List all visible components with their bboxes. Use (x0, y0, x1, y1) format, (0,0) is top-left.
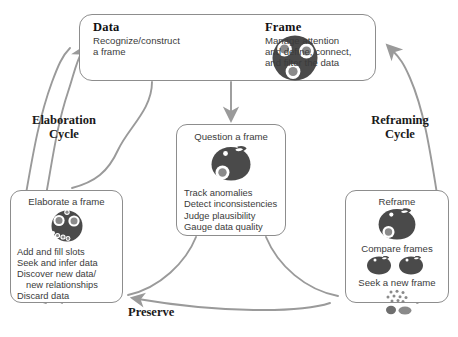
frame-elaborated-icon (41, 208, 93, 244)
scattered-data-icon (367, 289, 427, 316)
data-column: Data Recognize/construct a frame (93, 21, 213, 57)
compare-frames-label: Compare frames (346, 243, 448, 254)
elaborate-a-frame-box: Elaborate a frame Add and fill slots See… (10, 190, 123, 303)
list-item: new relationships (17, 280, 122, 291)
list-item: Discard data (17, 291, 122, 302)
seek-a-new-frame-label: Seek a new frame (346, 277, 448, 288)
reframe-title: Reframe (346, 196, 448, 207)
question-a-frame-title: Question a frame (177, 131, 285, 142)
data-heading: Data (93, 21, 213, 34)
list-item: Detect inconsistencies (184, 198, 285, 209)
figure-caption (72, 330, 402, 337)
arrow-question-to-elaborate (128, 237, 196, 295)
reframing-cycle-label: Reframing Cycle (352, 113, 448, 141)
list-item: Track anomalies (184, 187, 285, 198)
list-item: Add and fill slots (17, 247, 122, 258)
list-item: Judge plausibility (184, 210, 285, 221)
question-a-frame-list: Track anomalies Detect inconsistencies J… (184, 187, 285, 232)
elaborate-a-frame-list: Add and fill slots Seek and infer data D… (17, 247, 122, 302)
frame-heading: Frame (265, 21, 370, 34)
list-item: Seek and infer data (17, 258, 122, 269)
list-item: Gauge data quality (184, 221, 285, 232)
elaboration-cycle-label: Elaboration Cycle (14, 113, 114, 141)
elaborate-a-frame-title: Elaborate a frame (11, 196, 122, 207)
arrow-question-to-reframe (266, 237, 338, 296)
frame-questioned-icon (204, 143, 258, 183)
diagram-canvas: Data Recognize/construct a frame Frame M… (0, 0, 458, 337)
two-frames-compare-icon (365, 255, 429, 276)
preserve-label: Preserve (128, 305, 174, 320)
question-a-frame-box: Question a frame Track anomalies Detect … (176, 124, 286, 236)
data-description: Recognize/construct a frame (93, 35, 213, 57)
data-frame-box: Data Recognize/construct a frame Frame M… (79, 14, 376, 81)
reframe-box: Reframe Compare frames Seek a new frame (345, 190, 449, 303)
frame-column: Frame Manage attention and define, conne… (265, 21, 370, 69)
frame-description: Manage attention and define, connect, an… (265, 35, 370, 69)
list-item: Discover new data/ (17, 269, 122, 280)
frame-reframe-icon (371, 207, 423, 241)
